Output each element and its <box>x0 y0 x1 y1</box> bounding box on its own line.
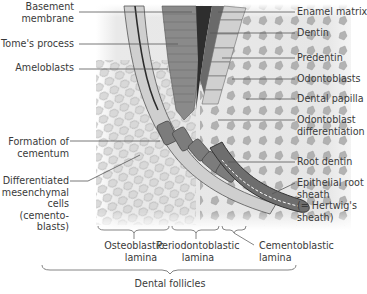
label-line: Ameloblasts <box>15 62 74 74</box>
label-line: Predentin <box>297 52 343 64</box>
label-line: blasts) <box>2 221 69 233</box>
label-epithelial-root-sheath: Epithelial root sheath (= Hertwig's shea… <box>297 177 364 223</box>
label-line: Differentiated <box>2 175 69 187</box>
label-line: Periodontoblastic <box>152 240 244 252</box>
label-line: Dental follicles <box>110 278 230 290</box>
label-tomes-process: Tome's process <box>1 38 74 50</box>
label-line: Odontoblast <box>297 114 365 126</box>
label-line: Formation of <box>8 136 69 148</box>
label-line: lamina <box>259 252 334 264</box>
label-line: Dentin <box>297 27 329 39</box>
label-line: (cemento- <box>2 210 69 222</box>
label-line: sheath) <box>297 212 364 224</box>
label-enamel-matrix: Enamel matrix <box>297 6 367 18</box>
label-line: Root dentin <box>297 156 352 168</box>
label-line: Enamel matrix <box>297 6 367 18</box>
label-basement-membrane: Basement membrane <box>22 1 75 24</box>
label-line: sheath <box>297 189 364 201</box>
label-line: (= Hertwig's <box>297 200 364 212</box>
label-root-dentin: Root dentin <box>297 156 352 168</box>
label-periodontoblastic-lamina: Periodontoblastic lamina <box>152 240 244 263</box>
label-line: Cementoblastic <box>259 240 334 252</box>
label-line: Odontoblasts <box>297 73 361 85</box>
label-line: cementum <box>8 148 69 160</box>
label-ameloblasts: Ameloblasts <box>15 62 74 74</box>
label-line: Basement <box>22 1 75 13</box>
label-odontoblast-differentiation: Odontoblast differentiation <box>297 114 365 137</box>
label-differentiated-mesenchymal-cells: Differentiated mesenchymal cells (cement… <box>2 175 69 233</box>
label-dental-papilla: Dental papilla <box>297 93 364 105</box>
label-line: Epithelial root <box>297 177 364 189</box>
label-line: membrane <box>22 13 75 25</box>
label-predentin: Predentin <box>297 52 343 64</box>
label-line: mesenchymal <box>2 187 69 199</box>
label-cementoblastic-lamina: Cementoblastic lamina <box>259 240 334 263</box>
label-line: Dental papilla <box>297 93 364 105</box>
label-odontoblasts: Odontoblasts <box>297 73 361 85</box>
label-dental-follicles: Dental follicles <box>110 278 230 290</box>
label-line: cells <box>2 198 69 210</box>
label-formation-of-cementum: Formation of cementum <box>8 136 69 159</box>
label-line: Tome's process <box>1 38 74 50</box>
label-line: differentiation <box>297 126 365 138</box>
label-dentin: Dentin <box>297 27 329 39</box>
label-line: lamina <box>152 252 244 264</box>
